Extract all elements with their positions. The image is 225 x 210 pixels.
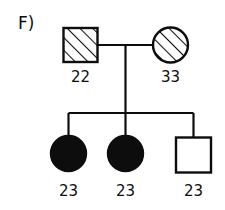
symbol-child2-filled-circle (108, 136, 143, 171)
panel-label: F) (18, 13, 34, 33)
pedigree-figure: F) 22 33 23 23 23 (0, 0, 225, 210)
label-father-id: 22 (71, 68, 90, 86)
label-mother-id: 33 (161, 68, 180, 86)
symbol-father-hatched-square (64, 28, 98, 62)
label-child1-id: 23 (59, 182, 78, 200)
label-child3-id: 23 (184, 182, 203, 200)
pedigree-canvas: F) 22 33 23 23 23 (0, 0, 225, 210)
label-child2-id: 23 (116, 182, 135, 200)
symbol-mother-hatched-circle (153, 28, 188, 63)
symbol-child1-filled-circle (51, 136, 86, 171)
symbol-child3-open-square (176, 138, 211, 173)
